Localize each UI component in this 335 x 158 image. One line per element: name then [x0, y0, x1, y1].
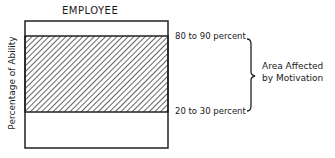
bracket-label-line1: Area Affected [262, 60, 323, 72]
lower-bound-label: 20 to 30 percent [175, 106, 246, 116]
bracket [247, 39, 255, 111]
motivation-hatched-area [25, 36, 168, 112]
upper-bound-label: 80 to 90 percent [175, 31, 246, 41]
bracket-label-line2: by Motivation [262, 72, 323, 84]
bracket-label: Area Affected by Motivation [262, 60, 323, 84]
